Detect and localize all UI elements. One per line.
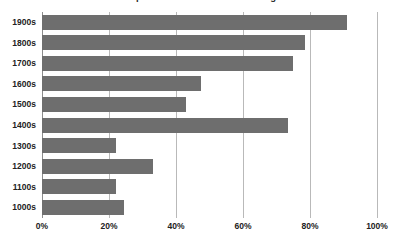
bar-1800s[interactable]	[42, 35, 305, 50]
bar-1200s[interactable]	[42, 159, 153, 174]
bar-1900s[interactable]	[42, 15, 347, 30]
bars-layer	[42, 12, 377, 218]
bar-band	[42, 197, 377, 218]
x-axis-tick-labels: 0%20%40%60%80%100%	[42, 221, 377, 237]
plot-area	[42, 12, 377, 218]
y-axis-label-1700s: 1700s	[12, 53, 36, 74]
gridline-100%	[377, 12, 378, 218]
bar-band	[42, 53, 377, 74]
y-axis-category-labels: 1900s1800s1700s1600s1500s1400s1300s1200s…	[0, 12, 40, 218]
bar-band	[42, 136, 377, 157]
bar-band	[42, 177, 377, 198]
x-axis-label-40%: 40%	[167, 221, 184, 231]
y-axis-label-1500s: 1500s	[12, 94, 36, 115]
bar-band	[42, 33, 377, 54]
x-axis-label-100%: 100%	[366, 221, 388, 231]
y-axis-label-1900s: 1900s	[12, 12, 36, 33]
bar-1100s[interactable]	[42, 179, 116, 194]
bar-1400s[interactable]	[42, 118, 288, 133]
y-axis-label-1600s: 1600s	[12, 74, 36, 95]
bar-1000s[interactable]	[42, 200, 124, 215]
bar-1600s[interactable]	[42, 76, 201, 91]
bar-band	[42, 94, 377, 115]
bar-band	[42, 115, 377, 136]
bar-band	[42, 156, 377, 177]
x-axis-label-0%: 0%	[36, 221, 48, 231]
y-axis-label-1100s: 1100s	[13, 177, 36, 198]
bar-1300s[interactable]	[42, 138, 116, 153]
bar-1500s[interactable]	[42, 97, 186, 112]
x-axis-label-80%: 80%	[301, 221, 318, 231]
y-axis-label-1300s: 1300s	[12, 136, 36, 157]
x-axis-label-60%: 60%	[234, 221, 251, 231]
bar-band	[42, 12, 377, 33]
bar-chart: Proportion of Records Containing 1900s18…	[0, 0, 396, 246]
y-axis-label-1200s: 1200s	[12, 156, 36, 177]
y-axis-label-1800s: 1800s	[12, 33, 36, 54]
y-axis-label-1400s: 1400s	[12, 115, 36, 136]
bar-band	[42, 74, 377, 95]
bar-1700s[interactable]	[42, 56, 293, 71]
y-axis-label-1000s: 1000s	[12, 197, 36, 218]
x-axis-label-20%: 20%	[100, 221, 117, 231]
chart-title: Proportion of Records Containing	[0, 0, 396, 3]
